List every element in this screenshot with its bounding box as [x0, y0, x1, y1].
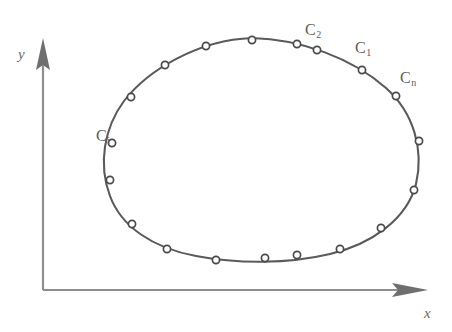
- figure-canvas: [0, 0, 452, 332]
- point-label-subscript: 2: [316, 29, 321, 40]
- point-label-letter: C: [355, 39, 366, 56]
- contour-curve: [104, 38, 419, 262]
- control-point-marker: [163, 245, 170, 252]
- control-point-marker: [212, 256, 219, 263]
- point-label-c-1: C1: [355, 40, 371, 56]
- control-point-marker: [313, 46, 320, 53]
- figure-container: y x CiC2C1Cn: [0, 0, 452, 332]
- control-point-marker: [127, 93, 134, 100]
- control-point-markers: [106, 36, 422, 263]
- control-point-marker: [106, 176, 113, 183]
- control-point-marker: [415, 137, 422, 144]
- control-point-marker: [392, 92, 399, 99]
- point-label-subscript: n: [411, 77, 416, 88]
- point-label-letter: C: [305, 21, 316, 38]
- control-point-marker: [336, 245, 343, 252]
- control-point-marker: [128, 220, 135, 227]
- control-point-marker: [358, 66, 365, 73]
- point-label-letter: C: [400, 69, 411, 86]
- control-point-marker: [248, 36, 255, 43]
- point-label-letter: C: [96, 127, 107, 144]
- point-label-subscript: 1: [366, 47, 371, 58]
- x-axis-label: x: [424, 306, 431, 321]
- point-label-c-2: C2: [305, 22, 321, 38]
- control-point-marker: [261, 254, 268, 261]
- control-point-marker: [377, 224, 384, 231]
- control-point-marker: [293, 251, 300, 258]
- control-point-marker: [202, 42, 209, 49]
- point-label-subscript: i: [107, 135, 110, 146]
- control-point-marker: [410, 186, 417, 193]
- point-label-c-i: Ci: [96, 128, 109, 144]
- point-label-c-n: Cn: [400, 70, 416, 86]
- control-point-marker: [293, 40, 300, 47]
- control-point-marker: [161, 61, 168, 68]
- y-axis-label: y: [18, 47, 25, 62]
